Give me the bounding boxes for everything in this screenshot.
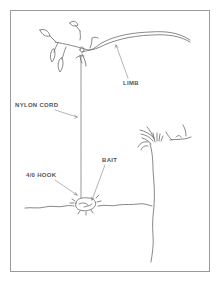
label-nylon-cord: NYLON CORD bbox=[15, 102, 58, 108]
bank-drop-line bbox=[150, 144, 154, 262]
label-limb: LIMB bbox=[123, 80, 139, 86]
bait-lump bbox=[70, 195, 101, 215]
grass-tuft bbox=[138, 125, 191, 150]
label-hook: 4/0 HOOK bbox=[26, 172, 56, 178]
label-bait: BAIT bbox=[102, 157, 117, 163]
set-line-illustration bbox=[0, 0, 221, 283]
leader-arrows bbox=[55, 45, 128, 200]
tree-limb bbox=[55, 25, 190, 52]
